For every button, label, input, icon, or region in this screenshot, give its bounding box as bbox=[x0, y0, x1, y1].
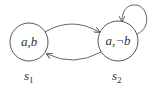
transition-s2-to-s1 bbox=[47, 52, 101, 60]
state-s2: a,¬b bbox=[98, 21, 138, 61]
transition-s1-to-s2 bbox=[45, 24, 99, 32]
state-s1-name: s1 bbox=[24, 68, 34, 85]
state-s2-label: a,¬b bbox=[105, 33, 131, 48]
state-s1-label: a,b bbox=[21, 34, 38, 49]
state-diagram: a,b a,¬b s1 s2 bbox=[0, 0, 160, 88]
state-s1: a,b bbox=[10, 23, 48, 61]
state-s2-name: s2 bbox=[112, 68, 122, 85]
